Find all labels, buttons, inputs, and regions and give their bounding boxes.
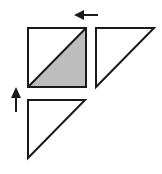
triangle-assembly-diagram (0, 0, 162, 174)
right-triangle (96, 28, 154, 87)
up-arrow-icon (11, 87, 21, 112)
bottom-triangle (28, 100, 85, 158)
left-arrow-icon (74, 10, 98, 20)
